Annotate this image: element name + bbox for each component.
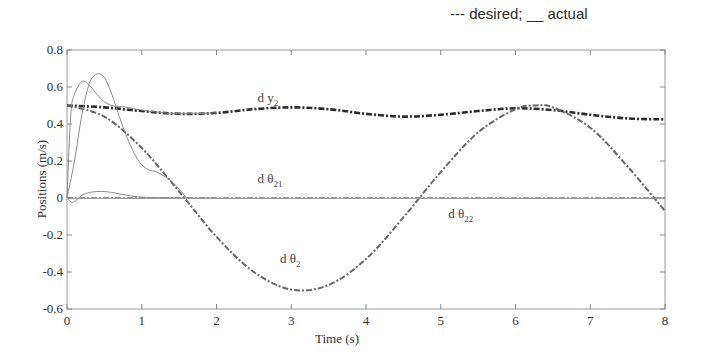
x-tick-label: 1 xyxy=(139,313,146,328)
x-tick-label: 7 xyxy=(587,313,594,328)
series-annotation: d y2 xyxy=(258,90,279,108)
axes: 012345678-0.6-0.4-0.200.20.40.60.8 xyxy=(42,42,668,328)
y-tick-label: 0 xyxy=(57,190,64,205)
x-tick-label: 0 xyxy=(64,313,71,328)
x-tick-label: 8 xyxy=(662,313,669,328)
y-axis-title: Positions (m/s) xyxy=(34,140,49,218)
series-annotation: d θ2 xyxy=(280,251,300,269)
annotations: d y2d θ21d θ22d θ2 xyxy=(258,90,474,269)
x-tick-label: 4 xyxy=(363,313,370,328)
x-tick-label: 6 xyxy=(512,313,519,328)
y-tick-label: 0.6 xyxy=(47,79,64,94)
x-axis-title: Time (s) xyxy=(315,331,359,346)
line-chart: 012345678-0.6-0.4-0.200.20.40.60.8 d y2d… xyxy=(0,0,704,357)
y-tick-label: -0.4 xyxy=(42,264,63,279)
series-annotation: d θ22 xyxy=(448,206,473,224)
y-tick-label: 0.4 xyxy=(47,116,64,131)
y-tick-label: 0.2 xyxy=(47,153,63,168)
y-tick-label: -0.2 xyxy=(42,227,63,242)
series-line-d-y2-actual xyxy=(67,81,217,198)
y-tick-label: -0.6 xyxy=(42,301,63,316)
series-line-d-theta21-actual xyxy=(67,191,217,202)
series-line-d-theta2-actual xyxy=(67,74,187,198)
x-tick-label: 3 xyxy=(288,313,295,328)
series-group xyxy=(67,74,665,291)
series-annotation: d θ21 xyxy=(258,171,283,189)
plot-frame xyxy=(67,50,665,309)
y-tick-label: 0.8 xyxy=(47,42,63,57)
x-tick-label: 5 xyxy=(438,313,445,328)
x-tick-label: 2 xyxy=(213,313,220,328)
